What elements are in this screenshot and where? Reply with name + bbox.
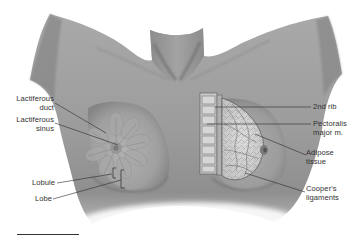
torso — [30, 14, 342, 242]
label-lactiferous-duct: Lactiferous duct — [6, 95, 54, 112]
label-coopers-ligaments: Cooper's ligaments — [306, 185, 339, 202]
breast-anatomy-figure: Lactiferous duct Lactiferous sinus Lobul… — [0, 0, 362, 242]
label-adipose-tissue: Adipose tissue — [306, 149, 334, 166]
label-lactiferous-sinus: Lactiferous sinus — [6, 116, 54, 133]
label-2nd-rib: 2nd rib — [313, 103, 337, 112]
label-lobule: Lobule — [6, 179, 55, 188]
anatomy-illustration — [0, 0, 362, 242]
rib-cage-section — [200, 93, 222, 175]
label-lobe: Lobe — [6, 195, 52, 204]
label-pectoralis-major: Pectoralis major m. — [313, 120, 347, 137]
scale-bar — [17, 234, 79, 235]
